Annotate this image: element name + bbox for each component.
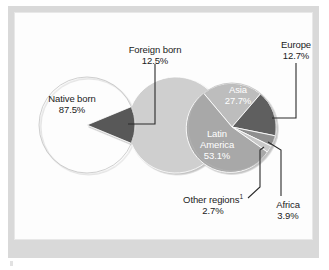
label-asia-value: 27.7% bbox=[210, 95, 266, 106]
label-native-born-name: Native born bbox=[48, 93, 95, 104]
label-latin-america-value: 53.1% bbox=[186, 150, 248, 161]
label-europe-value: 12.7% bbox=[266, 50, 326, 61]
label-africa: Africa 3.9% bbox=[260, 199, 316, 221]
chart-figure: Native born 87.5% Foreign born 12.5% Asi… bbox=[0, 0, 329, 270]
label-latin-america: Latin America 53.1% bbox=[186, 128, 248, 161]
leader-africa bbox=[268, 142, 281, 196]
label-other-regions-value: 2.7% bbox=[171, 205, 255, 216]
label-latin-america-line2: America bbox=[186, 139, 248, 150]
label-africa-value: 3.9% bbox=[260, 210, 316, 221]
footnote-rule bbox=[10, 261, 13, 266]
leader-europe bbox=[272, 63, 296, 118]
label-other-regions-name: Other regions bbox=[183, 194, 239, 205]
label-other-regions: Other regions1 2.7% bbox=[171, 191, 255, 216]
label-africa-name: Africa bbox=[276, 199, 300, 210]
label-asia: Asia 27.7% bbox=[210, 84, 266, 106]
label-europe: Europe 12.7% bbox=[266, 39, 326, 61]
label-foreign-born-name: Foreign born bbox=[129, 44, 182, 55]
label-native-born-value: 87.5% bbox=[30, 104, 114, 115]
footnote-marker: 1 bbox=[239, 193, 243, 200]
label-europe-name: Europe bbox=[281, 39, 311, 50]
label-latin-america-line1: Latin bbox=[207, 128, 227, 139]
label-asia-name: Asia bbox=[229, 84, 247, 95]
label-native-born: Native born 87.5% bbox=[30, 93, 114, 115]
label-foreign-born: Foreign born 12.5% bbox=[110, 44, 200, 66]
label-foreign-born-value: 12.5% bbox=[110, 55, 200, 66]
